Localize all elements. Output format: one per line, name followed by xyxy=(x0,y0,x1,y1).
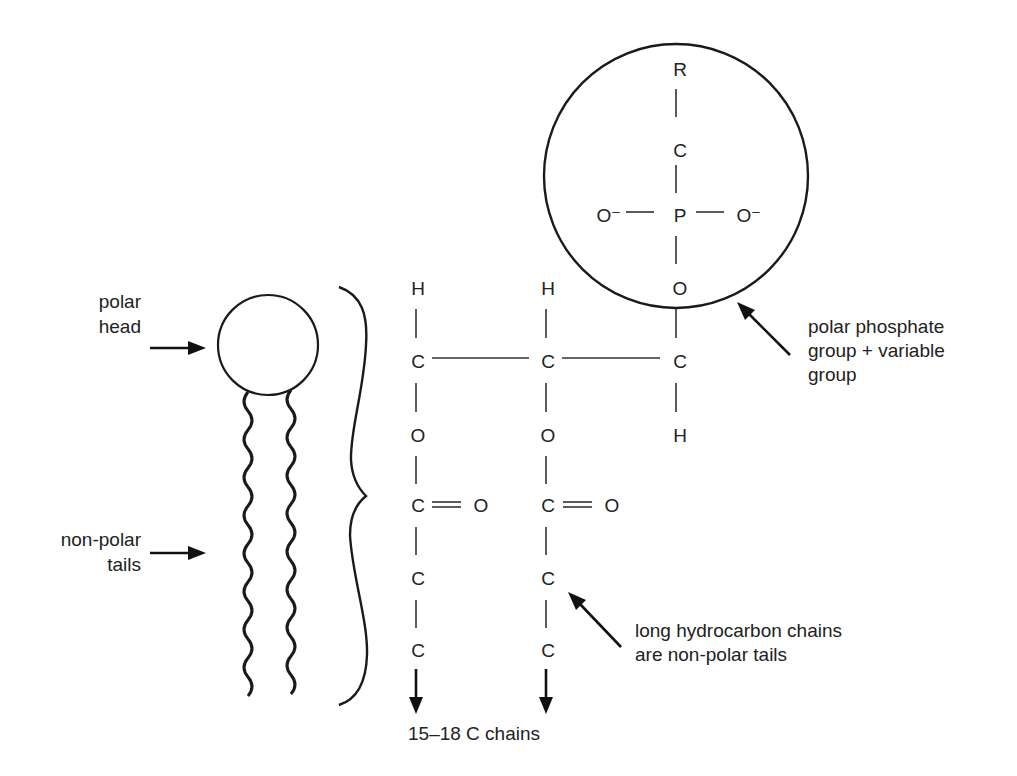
hydrocarbon-annotation: long hydrocarbon chains are non-polar ta… xyxy=(568,592,842,665)
hydrocarbon-label-line1: long hydrocarbon chains xyxy=(635,620,842,641)
atom-c: C xyxy=(541,351,555,372)
phospholipid-diagram: polar head non-polar tails H C O C O C C xyxy=(0,0,1017,776)
polar-head-label-line2: head xyxy=(99,316,141,337)
hydrocarbon-label-line2: are non-polar tails xyxy=(635,644,787,665)
nonpolar-tails-arrow-icon xyxy=(150,546,206,560)
atom-c: C xyxy=(673,351,687,372)
atom-c: C xyxy=(541,568,555,589)
atom-c: C xyxy=(411,640,425,661)
nonpolar-tails-label-line2: tails xyxy=(107,554,141,575)
phosphate-label-line3: group xyxy=(808,364,857,385)
phosphate-label-line2: group + variable xyxy=(808,340,945,361)
tail-wavy-left xyxy=(244,392,252,696)
phosphate-label-line1: polar phosphate xyxy=(808,316,944,337)
polar-head-circle xyxy=(218,295,318,395)
atom-o: O xyxy=(541,425,556,446)
polar-head-arrow-icon xyxy=(150,341,206,355)
atom-o-ester: O xyxy=(673,278,688,299)
schematic-phospholipid: polar head non-polar tails xyxy=(61,291,318,696)
atom-r: R xyxy=(673,59,687,80)
atom-o-carbonyl: O xyxy=(474,495,489,516)
glycerol-column-2: H C O C O C C xyxy=(539,278,619,714)
atom-h: H xyxy=(541,278,555,299)
atom-o-minus-left: O⁻ xyxy=(597,205,622,226)
glycerol-column-3: O C H xyxy=(673,278,688,446)
phosphate-annotation: polar phosphate group + variable group xyxy=(737,302,945,385)
atom-c: C xyxy=(411,568,425,589)
chain-continues-arrow-icon xyxy=(539,669,553,714)
atom-c-carbonyl: C xyxy=(411,495,425,516)
atom-p: P xyxy=(674,205,687,226)
atom-o: O xyxy=(411,425,426,446)
atom-c-carbonyl: C xyxy=(541,495,555,516)
atom-h: H xyxy=(673,425,687,446)
chain-continues-arrow-icon xyxy=(409,669,423,714)
curly-brace-icon xyxy=(339,287,367,705)
atom-c: C xyxy=(673,140,687,161)
nonpolar-tails-label-line1: non-polar xyxy=(61,529,142,550)
tail-wavy-right xyxy=(287,390,295,694)
atom-h: H xyxy=(411,278,425,299)
phosphate-group: R C P O⁻ O⁻ xyxy=(544,44,808,308)
atom-o-minus-right: O⁻ xyxy=(737,205,762,226)
polar-head-label-line1: polar xyxy=(99,291,142,312)
atom-c: C xyxy=(411,351,425,372)
atom-c: C xyxy=(541,640,555,661)
chain-length-label: 15–18 C chains xyxy=(408,723,540,744)
glycerol-column-1: H C O C O C C xyxy=(409,278,488,714)
atom-o-carbonyl: O xyxy=(605,495,620,516)
